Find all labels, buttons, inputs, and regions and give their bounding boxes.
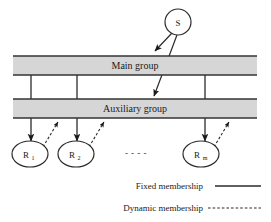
main-group-band[interactable]: Main group [13,56,257,75]
dynamic-link-rm [214,122,229,147]
resource-node-rm-ellipse [183,141,219,167]
resource-node-r1-subscript: 1 [32,155,35,161]
resource-node-r2-subscript: 2 [78,155,81,161]
auxiliary-group-band[interactable]: Auxiliary group [13,99,257,118]
resource-node-r2-label: R [69,150,75,160]
source-link-to-main [155,33,172,51]
dynamic-link-r1 [43,122,58,147]
resource-node-r1[interactable]: R 1 [12,141,48,167]
group-membership-diagram: Main group Auxiliary group S R 1 [0,0,271,222]
source-node-label: S [175,18,180,28]
resource-node-r2-ellipse [58,141,94,167]
legend-label-fixed-membership: Fixed membership [136,181,204,191]
resource-node-rm-subscript: m [203,155,208,161]
legend-item-dynamic-membership: Dynamic membership [123,203,261,213]
legend-item-fixed-membership: Fixed membership [136,181,261,191]
legend: Fixed membership Dynamic membership [123,181,261,213]
resource-node-r2[interactable]: R 2 [58,141,94,167]
resource-node-r1-ellipse [12,141,48,167]
auxiliary-group-label: Auxiliary group [103,103,167,114]
main-group-label: Main group [112,60,159,71]
nodes-ellipsis: - - - - [125,148,147,158]
source-node-s[interactable]: S [165,9,191,35]
resource-node-rm[interactable]: R m [183,141,219,167]
resource-node-r1-label: R [23,150,29,160]
diagram-canvas: Main group Auxiliary group S R 1 [0,0,271,222]
legend-label-dynamic-membership: Dynamic membership [123,203,203,213]
dynamic-link-r2 [89,122,104,147]
resource-node-rm-label: R [194,150,200,160]
